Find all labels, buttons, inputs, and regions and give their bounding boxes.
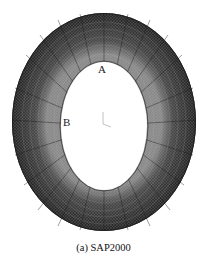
point-label-b: B xyxy=(63,117,70,128)
ring-mesh-figure xyxy=(0,0,207,255)
figure-caption: (a) SAP2000 xyxy=(0,242,207,253)
ring-mesh xyxy=(12,13,196,231)
point-label-a: A xyxy=(98,64,106,75)
